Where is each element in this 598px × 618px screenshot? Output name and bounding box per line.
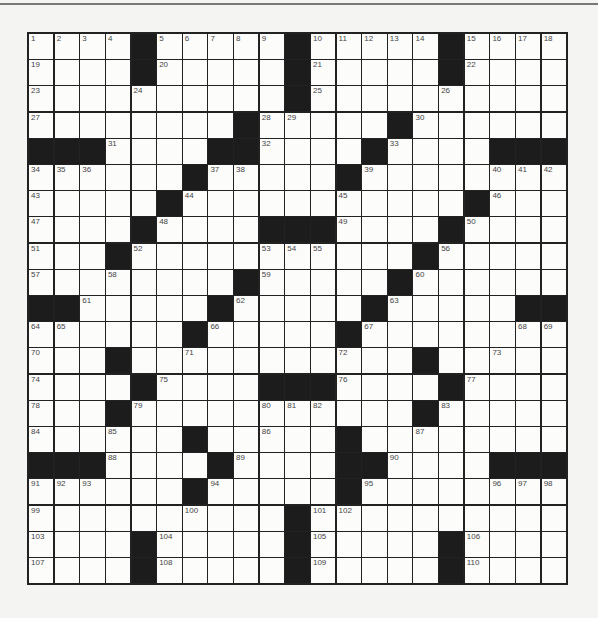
grid-cell[interactable]: 61	[80, 296, 104, 321]
grid-cell[interactable]	[157, 244, 181, 269]
grid-cell[interactable]	[157, 165, 181, 190]
grid-cell[interactable]	[260, 86, 284, 111]
grid-cell[interactable]	[362, 558, 386, 583]
grid-cell[interactable]: 94	[208, 479, 232, 504]
grid-cell[interactable]	[80, 217, 104, 242]
grid-cell[interactable]: 32	[260, 139, 284, 164]
grid-cell[interactable]	[157, 270, 181, 295]
grid-cell[interactable]	[183, 453, 207, 478]
grid-cell[interactable]: 79	[132, 401, 156, 426]
grid-cell[interactable]	[132, 113, 156, 138]
grid-cell[interactable]	[362, 427, 386, 452]
grid-cell[interactable]	[183, 401, 207, 426]
grid-cell[interactable]	[388, 60, 412, 85]
grid-cell[interactable]: 91	[29, 479, 53, 504]
grid-cell[interactable]	[362, 113, 386, 138]
grid-cell[interactable]: 1	[29, 34, 53, 59]
grid-cell[interactable]	[516, 270, 540, 295]
grid-cell[interactable]	[208, 506, 232, 531]
grid-cell[interactable]: 60	[413, 270, 437, 295]
grid-cell[interactable]	[260, 506, 284, 531]
grid-cell[interactable]: 30	[413, 113, 437, 138]
grid-cell[interactable]	[388, 401, 412, 426]
grid-cell[interactable]: 107	[29, 558, 53, 583]
grid-cell[interactable]: 89	[234, 453, 258, 478]
grid-cell[interactable]	[234, 427, 258, 452]
grid-cell[interactable]	[285, 427, 309, 452]
grid-cell[interactable]: 45	[337, 191, 361, 216]
grid-cell[interactable]	[106, 60, 130, 85]
grid-cell[interactable]	[413, 191, 437, 216]
grid-cell[interactable]: 80	[260, 401, 284, 426]
grid-cell[interactable]	[465, 348, 489, 373]
grid-cell[interactable]: 66	[208, 322, 232, 347]
grid-cell[interactable]	[516, 191, 540, 216]
grid-cell[interactable]	[285, 270, 309, 295]
grid-cell[interactable]: 71	[183, 348, 207, 373]
grid-cell[interactable]: 48	[157, 217, 181, 242]
grid-cell[interactable]	[55, 191, 79, 216]
grid-cell[interactable]	[208, 401, 232, 426]
grid-cell[interactable]: 93	[80, 479, 104, 504]
grid-cell[interactable]	[362, 244, 386, 269]
grid-cell[interactable]	[516, 113, 540, 138]
grid-cell[interactable]	[362, 401, 386, 426]
grid-cell[interactable]: 69	[542, 322, 566, 347]
grid-cell[interactable]: 10	[311, 34, 335, 59]
grid-cell[interactable]	[132, 191, 156, 216]
grid-cell[interactable]	[157, 139, 181, 164]
grid-cell[interactable]	[183, 139, 207, 164]
grid-cell[interactable]	[465, 244, 489, 269]
grid-cell[interactable]	[260, 453, 284, 478]
grid-cell[interactable]: 3	[80, 34, 104, 59]
grid-cell[interactable]	[132, 322, 156, 347]
grid-cell[interactable]	[260, 558, 284, 583]
grid-cell[interactable]	[337, 60, 361, 85]
grid-cell[interactable]	[439, 139, 463, 164]
grid-cell[interactable]	[157, 348, 181, 373]
grid-cell[interactable]: 82	[311, 401, 335, 426]
grid-cell[interactable]	[183, 532, 207, 557]
grid-cell[interactable]	[132, 296, 156, 321]
grid-cell[interactable]: 28	[260, 113, 284, 138]
grid-cell[interactable]	[516, 217, 540, 242]
grid-cell[interactable]	[106, 113, 130, 138]
grid-cell[interactable]: 86	[260, 427, 284, 452]
grid-cell[interactable]	[337, 86, 361, 111]
grid-cell[interactable]	[183, 270, 207, 295]
grid-cell[interactable]	[542, 375, 566, 400]
grid-cell[interactable]	[311, 322, 335, 347]
grid-cell[interactable]	[362, 506, 386, 531]
grid-cell[interactable]	[285, 453, 309, 478]
grid-cell[interactable]	[55, 532, 79, 557]
grid-cell[interactable]: 75	[157, 375, 181, 400]
grid-cell[interactable]	[80, 322, 104, 347]
grid-cell[interactable]: 22	[465, 60, 489, 85]
grid-cell[interactable]: 18	[542, 34, 566, 59]
grid-cell[interactable]	[55, 270, 79, 295]
grid-cell[interactable]	[413, 375, 437, 400]
grid-cell[interactable]: 43	[29, 191, 53, 216]
grid-cell[interactable]	[311, 453, 335, 478]
grid-cell[interactable]	[80, 375, 104, 400]
grid-cell[interactable]	[388, 479, 412, 504]
grid-cell[interactable]: 37	[208, 165, 232, 190]
grid-cell[interactable]: 73	[490, 348, 514, 373]
grid-cell[interactable]: 11	[337, 34, 361, 59]
grid-cell[interactable]	[388, 348, 412, 373]
grid-cell[interactable]	[208, 348, 232, 373]
grid-cell[interactable]	[465, 139, 489, 164]
grid-cell[interactable]	[157, 86, 181, 111]
grid-cell[interactable]	[132, 348, 156, 373]
grid-cell[interactable]: 100	[183, 506, 207, 531]
grid-cell[interactable]: 41	[516, 165, 540, 190]
grid-cell[interactable]: 64	[29, 322, 53, 347]
grid-cell[interactable]	[132, 139, 156, 164]
grid-cell[interactable]	[490, 217, 514, 242]
grid-cell[interactable]: 4	[106, 34, 130, 59]
grid-cell[interactable]	[132, 453, 156, 478]
grid-cell[interactable]	[311, 296, 335, 321]
grid-cell[interactable]	[80, 60, 104, 85]
grid-cell[interactable]: 59	[260, 270, 284, 295]
grid-cell[interactable]	[413, 558, 437, 583]
